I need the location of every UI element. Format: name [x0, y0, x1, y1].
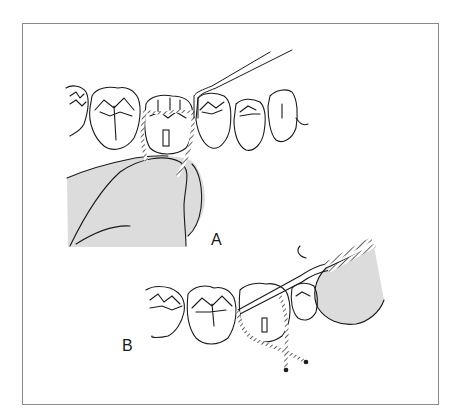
panel-label-b: B [122, 338, 133, 354]
panel-label-a: A [211, 232, 222, 248]
tooth-a4 [196, 93, 231, 148]
tooth-a6 [268, 90, 297, 142]
ligature-b-loop [238, 312, 306, 362]
dental-illustration [0, 0, 458, 420]
panel-b-drawing [146, 240, 384, 372]
panel-a-drawing [66, 50, 308, 247]
tooth-b4 [291, 283, 317, 320]
explorer-instrument [194, 50, 292, 118]
tooth-b1 [146, 287, 184, 338]
ligature-b-end [280, 296, 287, 370]
tooth-b2 [187, 286, 236, 344]
